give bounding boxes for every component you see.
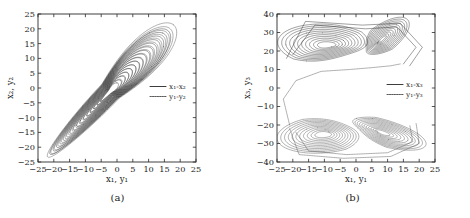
trajectory-loop bbox=[77, 58, 143, 127]
tick-label: 10 bbox=[143, 164, 153, 174]
panel-a-xlabel: x₁, y₁ bbox=[106, 174, 128, 184]
panel-b-legend-label-0: x₁-x₃ bbox=[406, 80, 423, 89]
panel-b-legend: x₁-x₃ y₁-y₃ bbox=[387, 80, 423, 99]
trajectory-loop bbox=[307, 129, 337, 141]
tick-label: −5 bbox=[334, 164, 346, 174]
trajectory-loop bbox=[285, 121, 354, 150]
trajectory-loop bbox=[369, 21, 405, 52]
panel-a-ylabel: x₂, y₂ bbox=[5, 77, 15, 99]
trajectory-loop bbox=[72, 50, 151, 132]
panel-a: −25−20−15−10−50510152025 −25−20−15−10−50… bbox=[0, 0, 235, 218]
trajectory-loop bbox=[63, 43, 157, 140]
tick-label: 10 bbox=[25, 53, 35, 63]
trajectory-loop bbox=[282, 26, 365, 60]
trajectory-loop bbox=[79, 57, 143, 124]
tick-label: −5 bbox=[95, 164, 107, 174]
tick-label: 5 bbox=[130, 164, 135, 174]
trajectory-loop bbox=[51, 27, 173, 154]
tick-label: −10 bbox=[77, 164, 94, 174]
tick-label: 20 bbox=[264, 46, 274, 56]
trajectory-loop bbox=[73, 54, 146, 130]
trajectory-loop bbox=[50, 29, 171, 155]
tick-label: 40 bbox=[264, 9, 274, 19]
trajectory-loop bbox=[60, 40, 160, 144]
panel-a-y-tick-labels: −25−20−15−10−50510152025 bbox=[18, 9, 35, 167]
tick-label: 0 bbox=[353, 164, 358, 174]
trajectory-loop bbox=[304, 128, 340, 143]
panel-b-caption: (b) bbox=[235, 192, 470, 203]
tick-label: −40 bbox=[257, 157, 274, 167]
tick-label: −10 bbox=[316, 164, 333, 174]
trajectory-loop bbox=[57, 36, 164, 147]
panel-b-curves bbox=[277, 17, 426, 158]
trajectory-loop bbox=[47, 23, 176, 157]
tick-label: 0 bbox=[30, 83, 35, 93]
panel-a-curve-x1x2 bbox=[50, 29, 171, 155]
panel-b-ylabel: x₃, y₃ bbox=[242, 76, 252, 99]
tick-label: 25 bbox=[191, 164, 201, 174]
trajectory-loop bbox=[76, 53, 147, 127]
panel-b-x-tick-labels: −25−20−15−10−50510152025 bbox=[268, 164, 440, 174]
tick-label: −15 bbox=[18, 127, 35, 137]
figure-container: −25−20−15−10−50510152025 −25−20−15−10−50… bbox=[0, 0, 470, 218]
tick-label: −30 bbox=[257, 138, 274, 148]
trajectory-loop bbox=[58, 34, 166, 146]
tick-label: 10 bbox=[264, 64, 274, 74]
trajectory-loop bbox=[54, 30, 169, 149]
tick-label: −20 bbox=[257, 120, 274, 130]
trajectory-loop bbox=[70, 50, 150, 133]
tick-label: 5 bbox=[30, 68, 35, 78]
panel-b-plot: −25−20−15−10−50510152025 −40−30−20−10010… bbox=[235, 0, 470, 218]
panel-b: −25−20−15−10−50510152025 −40−30−20−10010… bbox=[235, 0, 470, 218]
tick-label: 30 bbox=[264, 27, 274, 37]
tick-label: 0 bbox=[269, 83, 274, 93]
panel-b-y-tick-labels: −40−30−20−10010203040 bbox=[257, 9, 274, 167]
panel-a-plot: −25−20−15−10−50510152025 −25−20−15−10−50… bbox=[0, 0, 235, 218]
panel-b-xlabel: x₁, y₁ bbox=[345, 174, 367, 184]
tick-label: 25 bbox=[25, 9, 35, 19]
tick-label: 15 bbox=[159, 164, 169, 174]
trajectory-loop bbox=[362, 122, 412, 144]
tick-label: 5 bbox=[369, 164, 374, 174]
trajectory-loop bbox=[311, 130, 334, 139]
trajectory-loop bbox=[318, 42, 336, 48]
tick-label: 25 bbox=[430, 164, 440, 174]
transient-arc bbox=[283, 64, 400, 125]
tick-label: 20 bbox=[25, 24, 35, 34]
tick-label: 20 bbox=[414, 164, 424, 174]
trajectory-loop bbox=[376, 32, 391, 45]
trajectory-loop bbox=[62, 38, 162, 142]
tick-label: −20 bbox=[18, 142, 35, 152]
panel-b-curve-x1x3 bbox=[278, 17, 423, 66]
tick-label: −15 bbox=[61, 164, 78, 174]
tick-label: −10 bbox=[18, 113, 35, 123]
trajectory-loop bbox=[65, 42, 158, 139]
panel-a-legend-label-0: x₁-x₂ bbox=[169, 82, 186, 91]
trajectory-loop bbox=[360, 121, 416, 146]
tick-label: −10 bbox=[257, 101, 274, 111]
tick-label: −15 bbox=[300, 164, 317, 174]
panel-a-legend-label-1: y₁-y₂ bbox=[168, 92, 186, 101]
trajectory-loop bbox=[371, 127, 397, 138]
tick-label: 0 bbox=[114, 164, 119, 174]
tick-label: −20 bbox=[284, 164, 301, 174]
panel-a-x-tick-labels: −25−20−15−10−50510152025 bbox=[29, 164, 201, 174]
tick-label: 15 bbox=[25, 39, 35, 49]
panel-b-curve-y1y3 bbox=[277, 64, 426, 158]
tick-label: −5 bbox=[23, 98, 35, 108]
trajectory-loop bbox=[315, 132, 332, 138]
panel-a-caption: (a) bbox=[0, 192, 235, 203]
tick-label: 15 bbox=[398, 164, 408, 174]
tick-label: 20 bbox=[175, 164, 185, 174]
trajectory-loop bbox=[80, 61, 139, 123]
tick-label: −20 bbox=[45, 164, 62, 174]
panel-b-legend-label-1: y₁-y₃ bbox=[405, 90, 423, 99]
tick-label: 10 bbox=[382, 164, 392, 174]
tick-label: −25 bbox=[18, 157, 35, 167]
panel-a-curve-y1y2 bbox=[47, 23, 176, 157]
trajectory-loop bbox=[296, 125, 345, 145]
panel-a-curves bbox=[47, 23, 176, 157]
panel-a-legend: x₁-x₂ y₁-y₂ bbox=[150, 82, 186, 101]
